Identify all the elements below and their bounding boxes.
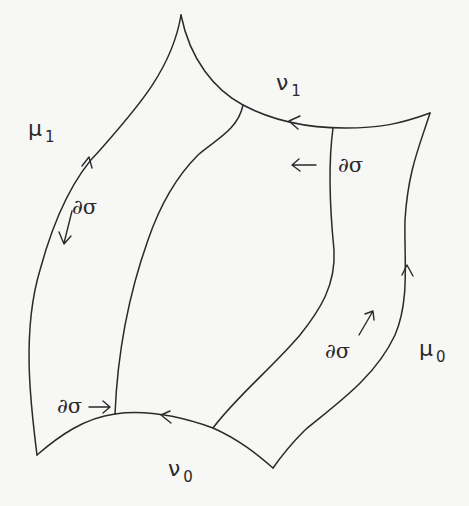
label-nu1-sub: 1 [291, 82, 301, 100]
label-mu1: μ1 [28, 118, 55, 145]
arrow-left-icon [292, 159, 316, 171]
arrow-head-mu1-icon [82, 157, 92, 168]
label-nu0-sub: 0 [183, 468, 193, 486]
label-nu1: ν1 [276, 72, 301, 99]
arrow-down-icon [59, 211, 72, 244]
boundary-label-left: ∂σ [72, 197, 97, 218]
boundary-label-bottom-left: ∂σ [57, 396, 82, 417]
label-mu0: μ0 [419, 338, 446, 365]
arrow-head-mu0-icon [402, 265, 413, 276]
arrow-right-icon [89, 401, 110, 413]
label-mu0-base: μ [419, 336, 433, 361]
boundary-nu1 [181, 15, 430, 128]
diagram-canvas [0, 0, 469, 506]
boundary-mu1 [29, 15, 181, 455]
boundary-nu0 [37, 413, 273, 468]
label-nu0-base: ν [168, 456, 180, 481]
boundary-label-top-right: ∂σ [338, 155, 363, 176]
arrow-up-right-icon [359, 311, 374, 335]
interior-curve-1 [115, 105, 243, 414]
boundary-label-bottom-right: ∂σ [325, 341, 350, 362]
label-nu0: ν0 [168, 458, 193, 485]
label-mu0-sub: 0 [436, 348, 446, 366]
label-mu1-base: μ [28, 116, 42, 141]
interior-curve-2 [213, 128, 334, 428]
arrow-head-nu0-icon [161, 411, 171, 423]
label-mu1-sub: 1 [45, 128, 55, 146]
label-nu1-base: ν [276, 70, 288, 95]
